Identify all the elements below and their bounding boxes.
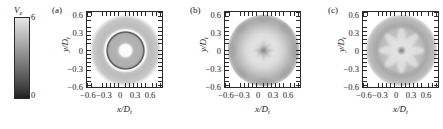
ytick-label: 0.6	[329, 11, 359, 20]
ytick-label: 0.6	[191, 11, 221, 20]
panel-c-axes	[362, 11, 439, 88]
colorbar: Vz 6 0	[6, 4, 50, 104]
colorbar-gradient	[14, 17, 30, 99]
colorbar-title: Vz	[14, 4, 44, 16]
panel-a-axes	[86, 11, 163, 88]
panel-c-ylabel: y/Dt	[336, 25, 349, 65]
panel-a-contour	[87, 12, 163, 88]
panel-b-axes	[224, 11, 301, 88]
colorbar-min-label: 0	[31, 91, 35, 100]
panel-b-heatmap	[225, 12, 300, 87]
panel-c-xtick-labels: −0.6 −0.3 0 0.3 0.6	[356, 90, 443, 102]
panel-a-ylabel: y/Dt	[60, 25, 73, 65]
panel-b-xlabel: x/Dt	[224, 104, 301, 117]
ytick-label: −0.3	[53, 65, 83, 74]
ytick-label: 0.6	[53, 11, 83, 20]
panel-a-xlabel: x/Dt	[86, 104, 163, 117]
ytick-label: −0.3	[191, 65, 221, 74]
colorbar-max-label: 6	[31, 13, 35, 22]
panel-c-heatmap	[363, 12, 438, 87]
panel-b-ylabel: y/Dt	[198, 25, 211, 65]
panel-b-contour	[225, 12, 301, 88]
panel-a-heatmap	[87, 12, 162, 87]
xtick-label: 0.6	[277, 90, 299, 101]
panel-c-contour	[363, 12, 439, 88]
xtick-label: 0.6	[415, 90, 437, 101]
xtick-label: 0.6	[139, 90, 161, 101]
panel-a: (a) 0.6 0.3 0 −0.3 −0.6	[52, 0, 170, 129]
ytick-label: −0.3	[329, 65, 359, 74]
panel-b-xtick-labels: −0.6 −0.3 0 0.3 0.6	[218, 90, 308, 102]
panel-c: (c) 0.6 0.3 0 −0.3 −0.6	[328, 0, 443, 129]
panel-c-xlabel: x/Dt	[362, 104, 439, 117]
panel-a-xtick-labels: −0.6 −0.3 0 0.3 0.6	[80, 90, 170, 102]
panel-b: (b) 0.6 0.3 0 −0.3 −0.6	[190, 0, 308, 129]
